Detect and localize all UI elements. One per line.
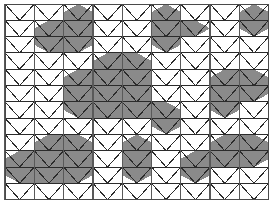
pattern-canvas — [0, 0, 269, 203]
triangular-lattice-svg — [0, 0, 269, 203]
